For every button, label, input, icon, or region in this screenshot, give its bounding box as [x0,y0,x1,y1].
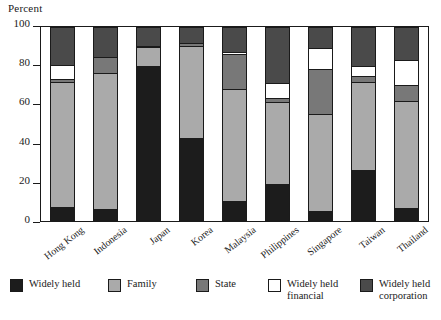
y-axis-tick-label: 100 [14,18,31,29]
legend-label: Widely held corporation [379,278,435,302]
bar-segment-widely-held[interactable] [351,170,376,221]
bar-segment-family[interactable] [179,46,204,138]
bar-segment-state[interactable] [351,76,376,82]
bar-thailand[interactable] [394,27,419,221]
bar-segment-family[interactable] [136,47,161,66]
bar-segment-widely-held-financial[interactable] [351,66,376,76]
legend-swatch-icon [10,279,23,292]
bar-segment-state[interactable] [308,69,333,115]
y-axis-tick-mark [33,26,40,27]
bar-segment-widely-held-corporation[interactable] [351,27,376,66]
bar-segment-widely-held-corporation[interactable] [50,27,75,65]
bar-segment-widely-held-financial[interactable] [50,65,75,79]
chart-root: Percent 020406080100 Hong KongIndonesiaJ… [0,0,441,320]
chart-legend: Widely heldFamilyStateWidely held financ… [10,278,435,316]
legend-label: Widely held [29,278,80,290]
bar-singapore[interactable] [308,27,333,221]
bar-segment-family[interactable] [222,89,247,201]
bar-taiwan[interactable] [351,27,376,221]
bar-segment-widely-held[interactable] [394,208,419,221]
x-axis-label-philippines: Philippines [258,224,300,260]
legend-item-widely-held-financial[interactable]: Widely held financial [268,278,361,302]
bar-segment-widely-held-corporation[interactable] [93,27,118,57]
x-axis-label-hong-kong: Hong Kong [42,224,86,262]
x-axis-label-taiwan: Taiwan [356,224,386,251]
bar-segment-widely-held-corporation[interactable] [265,27,290,83]
y-axis-tick-label: 20 [19,175,30,186]
legend-swatch-icon [268,279,281,292]
bar-segment-widely-held[interactable] [222,201,247,221]
y-axis-tick-label: 80 [19,57,30,68]
y-axis-tick-label: 60 [19,96,30,107]
bar-segment-widely-held[interactable] [265,184,290,221]
bar-segment-widely-held-corporation[interactable] [394,27,419,60]
bar-segment-family[interactable] [351,82,376,170]
bar-segment-widely-held-corporation[interactable] [179,27,204,43]
bar-segment-widely-held-financial[interactable] [308,48,333,69]
bar-malaysia[interactable] [222,27,247,221]
legend-label: Family [127,278,157,290]
bar-segment-widely-held-corporation[interactable] [222,27,247,52]
bar-japan[interactable] [136,27,161,221]
x-axis-label-indonesia: Indonesia [91,224,128,257]
bar-segment-state[interactable] [50,79,75,82]
x-axis-label-singapore: Singapore [305,224,344,258]
legend-label: Widely held financial [287,278,361,302]
legend-swatch-icon [196,279,209,292]
bar-segment-state[interactable] [394,85,419,101]
bar-segment-family[interactable] [265,102,290,184]
y-axis-tick-mark [33,65,40,66]
bar-indonesia[interactable] [93,27,118,221]
bar-segment-family[interactable] [308,114,333,210]
legend-item-state[interactable]: State [196,278,236,292]
bar-segment-widely-held[interactable] [136,66,161,221]
bar-segment-family[interactable] [93,73,118,210]
bar-segment-state[interactable] [265,98,290,102]
bar-segment-widely-held[interactable] [308,211,333,221]
bar-segment-widely-held-financial[interactable] [394,60,419,85]
bar-series-container [41,27,428,221]
bar-segment-widely-held-corporation[interactable] [308,27,333,48]
x-axis-label-japan: Japan [147,224,172,247]
bar-segment-family[interactable] [394,101,419,208]
bar-segment-widely-held-financial[interactable] [222,52,247,54]
y-axis-tick-mark [33,104,40,105]
bar-segment-widely-held[interactable] [179,138,204,221]
bar-korea[interactable] [179,27,204,221]
bar-segment-widely-held[interactable] [50,207,75,221]
bar-segment-state[interactable] [179,43,204,46]
bar-segment-widely-held-financial[interactable] [265,83,290,98]
y-axis-tick-label: 0 [25,214,31,225]
legend-item-widely-held[interactable]: Widely held [10,278,80,292]
legend-item-family[interactable]: Family [108,278,157,292]
bar-philippines[interactable] [265,27,290,221]
y-axis-tick-label: 40 [19,136,30,147]
legend-item-widely-held-corporation[interactable]: Widely held corporation [360,278,435,302]
y-axis-tick-mark [33,144,40,145]
legend-swatch-icon [108,279,121,292]
bar-segment-family[interactable] [50,82,75,208]
y-axis: 020406080100 [0,0,40,320]
y-axis-tick-mark [33,183,40,184]
legend-swatch-icon [360,279,373,292]
bar-segment-widely-held-corporation[interactable] [136,27,161,46]
x-axis-label-malaysia: Malaysia [222,224,258,255]
legend-label: State [215,278,236,290]
bar-segment-state[interactable] [222,54,247,89]
x-axis-label-thailand: Thailand [394,224,429,255]
bar-hong-kong[interactable] [50,27,75,221]
bar-segment-state[interactable] [136,46,161,48]
bar-segment-widely-held[interactable] [93,209,118,221]
y-axis-tick-mark [33,222,40,223]
x-axis-labels: Hong KongIndonesiaJapanKoreaMalaysiaPhil… [41,224,428,274]
x-axis-label-korea: Korea [188,224,214,248]
bar-segment-state[interactable] [93,57,118,73]
